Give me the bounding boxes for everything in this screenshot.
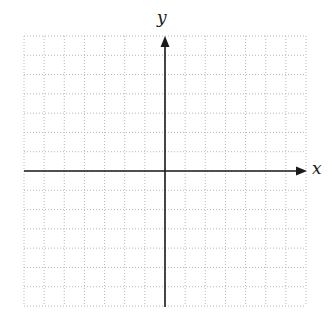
coordinate-grid (0, 0, 332, 319)
coordinate-plane: y x (0, 0, 332, 319)
x-axis-label: x (312, 160, 322, 177)
y-axis-arrow-icon (161, 36, 170, 47)
y-axis-label: y (157, 9, 167, 26)
x-axis-arrow-icon (296, 167, 307, 176)
